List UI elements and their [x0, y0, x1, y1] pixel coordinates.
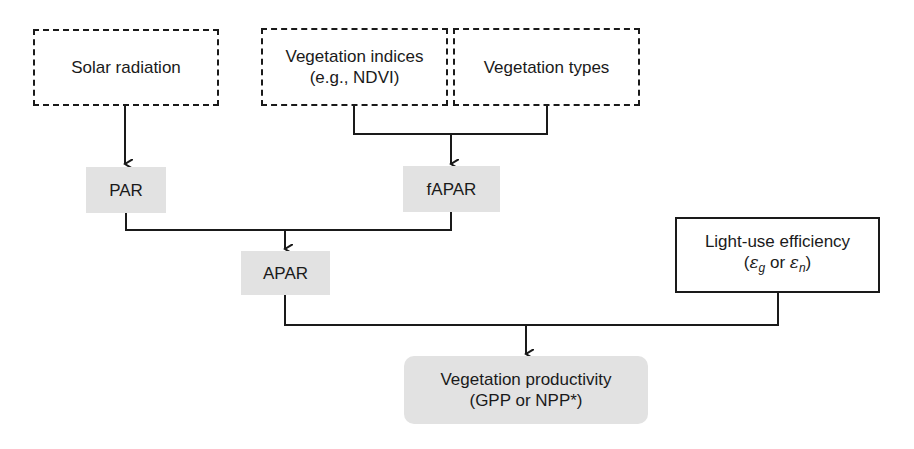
light-use-efficiency-label: Light-use efficiency [705, 231, 850, 252]
light-use-efficiency-symbols: (εg or εn) [744, 252, 812, 279]
vegetation-indices-node: Vegetation indices (e.g., NDVI) [261, 28, 448, 106]
vegetation-productivity-metrics: (GPP or NPP*) [469, 390, 582, 411]
vegetation-indices-label: Vegetation indices [286, 46, 424, 67]
apar-label: APAR [263, 263, 308, 284]
light-use-efficiency-node: Light-use efficiency (εg or εn) [675, 217, 880, 293]
par-label: PAR [109, 180, 143, 201]
fapar-label: fAPAR [427, 179, 477, 200]
vegetation-types-label: Vegetation types [484, 57, 610, 78]
vegetation-indices-example: (e.g., NDVI) [310, 67, 400, 88]
solar-radiation-node: Solar radiation [33, 29, 219, 106]
par-node: PAR [86, 167, 166, 213]
apar-node: APAR [241, 251, 330, 295]
fapar-node: fAPAR [403, 166, 500, 212]
solar-radiation-label: Solar radiation [71, 57, 181, 78]
vegetation-productivity-label: Vegetation productivity [440, 369, 611, 390]
vegetation-types-node: Vegetation types [453, 28, 640, 106]
vegetation-productivity-node: Vegetation productivity (GPP or NPP*) [404, 356, 648, 424]
